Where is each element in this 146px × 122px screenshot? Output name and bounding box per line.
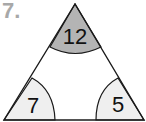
bottom-left-angle-label: 7: [27, 93, 39, 118]
triangle-diagram: 12 7 5: [0, 0, 146, 122]
top-angle-label: 12: [63, 24, 87, 49]
bottom-right-angle-label: 5: [112, 92, 124, 117]
